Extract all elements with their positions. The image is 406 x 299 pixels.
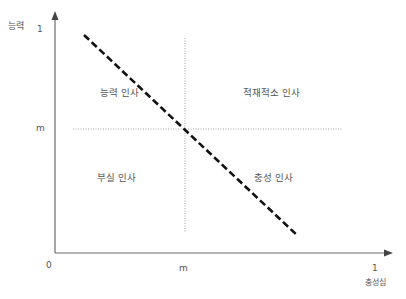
quadrant-top-right: 적재적소 인사 bbox=[243, 88, 300, 98]
y-axis-mid-tick: m bbox=[36, 124, 45, 133]
tradeoff-dashed-line bbox=[84, 35, 298, 236]
quadrant-top-left: 능력 인사 bbox=[100, 88, 139, 98]
y-axis-label: 능력 bbox=[8, 22, 24, 31]
x-axis-mid-tick: m bbox=[179, 264, 188, 273]
y-axis-max-tick: 1 bbox=[37, 25, 43, 34]
x-axis-arrow-icon bbox=[384, 250, 393, 257]
x-axis-max-tick: 1 bbox=[372, 264, 378, 273]
x-axis-label: 충성심 bbox=[365, 279, 386, 287]
diagram-canvas bbox=[0, 0, 406, 299]
quadrant-bottom-left: 부실 인사 bbox=[97, 173, 136, 183]
origin-tick: 0 bbox=[46, 261, 52, 270]
quadrant-bottom-right: 충성 인사 bbox=[254, 173, 293, 183]
y-axis-arrow-icon bbox=[52, 11, 59, 20]
